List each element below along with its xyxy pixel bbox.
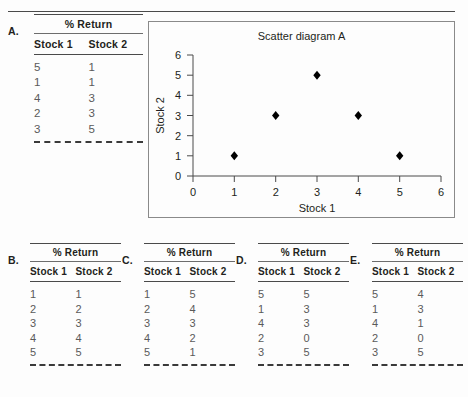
table-row: 4 2 bbox=[144, 331, 235, 346]
cell-stock1: 2 bbox=[258, 331, 304, 346]
table-row: 2 4 bbox=[144, 302, 235, 317]
table-a-letter: A. bbox=[8, 25, 19, 37]
cell-stock1: 4 bbox=[34, 91, 89, 106]
cell-stock1: 4 bbox=[144, 331, 190, 346]
cell-stock2: 5 bbox=[418, 345, 464, 360]
table-row: 5 4 bbox=[372, 287, 463, 302]
cell-stock1: 3 bbox=[34, 122, 89, 137]
cell-stock1: 4 bbox=[258, 316, 304, 331]
x-tick-label-6: 6 bbox=[438, 186, 444, 198]
table-row: 5 1 bbox=[144, 345, 235, 360]
cell-stock1: 3 bbox=[258, 345, 304, 360]
table-a-column-headers: Stock 1 Stock 2 bbox=[34, 34, 143, 54]
table-b-dashed-rule bbox=[30, 364, 121, 366]
cell-stock2: 1 bbox=[76, 287, 122, 302]
cell-stock1: 1 bbox=[34, 75, 89, 90]
cell-stock2: 1 bbox=[190, 345, 236, 360]
cell-stock2: 5 bbox=[190, 287, 236, 302]
y-tick-label-0: 0 bbox=[175, 170, 181, 182]
table-row: 1 1 bbox=[30, 287, 121, 302]
cell-stock2: 2 bbox=[190, 331, 236, 346]
cell-stock2: 1 bbox=[418, 316, 464, 331]
cell-stock1: 1 bbox=[372, 302, 418, 317]
table-d-caption: % Return bbox=[258, 244, 349, 261]
cell-stock1: 1 bbox=[258, 302, 304, 317]
table-row: 3 5 bbox=[34, 122, 143, 137]
cell-stock2: 3 bbox=[304, 316, 350, 331]
cell-stock1: 2 bbox=[144, 302, 190, 317]
cell-stock2: 0 bbox=[418, 331, 464, 346]
table-row: 2 0 bbox=[372, 331, 463, 346]
table-row: 4 1 bbox=[372, 316, 463, 331]
table-e-col1-header: Stock 1 bbox=[372, 266, 418, 277]
cell-stock1: 3 bbox=[30, 316, 76, 331]
cell-stock2: 3 bbox=[418, 302, 464, 317]
cell-stock1: 5 bbox=[30, 345, 76, 360]
cell-stock2: 4 bbox=[418, 287, 464, 302]
table-c-rows: 1 5 2 4 3 3 4 2 5 1 bbox=[144, 282, 235, 360]
cell-stock1: 4 bbox=[372, 316, 418, 331]
cell-stock1: 2 bbox=[372, 331, 418, 346]
table-b-column-headers: Stock 1 Stock 2 bbox=[30, 262, 121, 281]
x-axis-title: Stock 1 bbox=[299, 202, 336, 214]
table-row: 4 3 bbox=[34, 91, 143, 106]
table-d-rows: 5 5 1 3 4 3 2 0 3 5 bbox=[258, 282, 349, 360]
data-point-group bbox=[231, 71, 404, 161]
cell-stock2: 3 bbox=[89, 106, 144, 121]
table-d-letter: D. bbox=[236, 254, 247, 266]
x-tick-label-5: 5 bbox=[397, 186, 403, 198]
x-tick-label-1: 1 bbox=[231, 186, 237, 198]
table-e-col2-header: Stock 2 bbox=[418, 266, 464, 277]
y-tick-label-4: 4 bbox=[175, 89, 181, 101]
table-a-col2-header: Stock 2 bbox=[89, 38, 144, 50]
table-b-caption: % Return bbox=[30, 244, 121, 261]
x-tick-label-0: 0 bbox=[190, 186, 196, 198]
table-row: 3 3 bbox=[144, 316, 235, 331]
cell-stock1: 4 bbox=[30, 331, 76, 346]
table-row: 3 5 bbox=[372, 345, 463, 360]
table-d-column-headers: Stock 1 Stock 2 bbox=[258, 262, 349, 281]
cell-stock2: 2 bbox=[76, 302, 122, 317]
table-row: 2 3 bbox=[34, 106, 143, 121]
cell-stock1: 5 bbox=[144, 345, 190, 360]
scatter-plot-panel: Scatter diagram A 0 1 2 3 4 5 6 0 1 2 3 bbox=[148, 21, 455, 218]
cell-stock2: 5 bbox=[304, 287, 350, 302]
y-tick-label-6: 6 bbox=[175, 49, 181, 61]
cell-stock1: 3 bbox=[372, 345, 418, 360]
cell-stock1: 1 bbox=[144, 287, 190, 302]
x-tick-label-3: 3 bbox=[314, 186, 320, 198]
table-row: 2 0 bbox=[258, 331, 349, 346]
table-e-letter: E. bbox=[350, 254, 360, 266]
table-a-rows: 5 1 1 1 4 3 2 3 3 5 bbox=[34, 55, 143, 137]
table-b-col2-header: Stock 2 bbox=[76, 266, 122, 277]
table-row: 4 3 bbox=[258, 316, 349, 331]
cell-stock2: 3 bbox=[304, 302, 350, 317]
scatter-chart: 0 1 2 3 4 5 6 0 1 2 3 4 5 6 Stock 1 Stoc… bbox=[149, 22, 454, 217]
table-a-caption: % Return bbox=[34, 15, 143, 33]
cell-stock2: 1 bbox=[89, 75, 144, 90]
data-point bbox=[272, 111, 279, 120]
table-c-col2-header: Stock 2 bbox=[190, 266, 236, 277]
table-row: 5 5 bbox=[258, 287, 349, 302]
cell-stock2: 1 bbox=[89, 60, 144, 75]
table-e-dashed-rule bbox=[372, 364, 463, 366]
data-point bbox=[313, 71, 320, 80]
table-row: 2 2 bbox=[30, 302, 121, 317]
cell-stock1: 2 bbox=[30, 302, 76, 317]
cell-stock2: 4 bbox=[190, 302, 236, 317]
table-row: 1 5 bbox=[144, 287, 235, 302]
page-top-rule bbox=[8, 11, 455, 12]
table-d-dashed-rule bbox=[258, 364, 349, 366]
x-tick-label-4: 4 bbox=[355, 186, 361, 198]
data-point bbox=[231, 151, 238, 160]
cell-stock1: 1 bbox=[30, 287, 76, 302]
table-row: 4 4 bbox=[30, 331, 121, 346]
table-e-caption: % Return bbox=[372, 244, 463, 261]
table-e-column-headers: Stock 1 Stock 2 bbox=[372, 262, 463, 281]
table-a-col1-header: Stock 1 bbox=[34, 38, 89, 50]
y-tick-label-3: 3 bbox=[175, 110, 181, 122]
cell-stock2: 3 bbox=[76, 316, 122, 331]
table-c-dashed-rule bbox=[144, 364, 235, 366]
table-c-column-headers: Stock 1 Stock 2 bbox=[144, 262, 235, 281]
table-a-dashed-rule bbox=[34, 141, 143, 143]
